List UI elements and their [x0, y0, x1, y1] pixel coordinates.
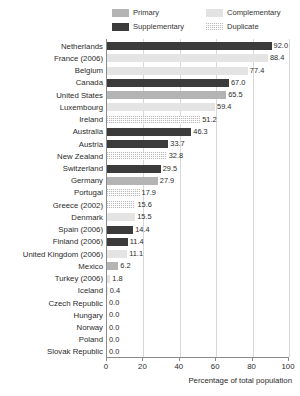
x-tick-40: [179, 357, 180, 361]
legend-swatch-duplicate: [206, 23, 223, 31]
bar-value-label: 77.4: [250, 67, 264, 75]
x-axis-title: Percentage of total population: [0, 376, 292, 385]
bar-value-label: 0.0: [109, 336, 119, 344]
bar-supplementary: [107, 238, 128, 246]
x-tick-label-100: 100: [281, 362, 294, 371]
legend-swatch-supplementary: [112, 23, 129, 31]
bar-supplementary: [107, 79, 229, 87]
bar-complementary: [107, 250, 127, 258]
bar-primary: [107, 262, 118, 270]
x-tick-0: [106, 357, 107, 361]
bar-value-label: 29.5: [163, 165, 177, 173]
x-axis-line: [106, 357, 289, 358]
legend-label-primary: Primary: [133, 9, 159, 17]
bar-value-label: 0.0: [109, 348, 119, 356]
bar-complementary: [107, 213, 135, 221]
bar-complementary: [107, 287, 108, 295]
category-label: Slovak Republic: [47, 345, 103, 359]
legend-item-supplementary: Supplementary: [112, 20, 202, 34]
bar-duplicate: [107, 201, 135, 209]
bar-supplementary: [107, 165, 161, 173]
bar-value-label: 59.4: [217, 103, 231, 111]
bar-value-label: 88.4: [270, 54, 284, 62]
bar-value-label: 32.8: [169, 152, 183, 160]
bar-value-label: 15.5: [137, 213, 151, 221]
legend-swatch-complementary: [206, 9, 223, 17]
x-tick-label-0: 0: [104, 362, 108, 371]
bar-value-label: 1.8: [112, 275, 122, 283]
bar-supplementary: [107, 226, 133, 234]
legend-item-primary: Primary: [112, 6, 202, 20]
bar-value-label: 33.7: [170, 140, 184, 148]
bar-duplicate: [107, 189, 140, 197]
legend-swatch-primary: [112, 9, 129, 17]
bar-supplementary: [107, 140, 168, 148]
bar-value-label: 15.6: [137, 201, 151, 209]
chart-legend: Primary Complementary Supplementary Dupl…: [112, 6, 296, 34]
x-tick-80: [252, 357, 253, 361]
bar-value-label: 46.3: [193, 128, 207, 136]
legend-item-complementary: Complementary: [206, 6, 296, 20]
x-tick-label-20: 20: [138, 362, 147, 371]
bar-value-label: 67.0: [231, 79, 245, 87]
bar-supplementary: [107, 42, 272, 50]
bar-value-label: 27.9: [160, 177, 174, 185]
bar-value-label: 11.1: [129, 250, 143, 258]
insurance-coverage-bar-chart: Primary Complementary Supplementary Dupl…: [0, 0, 300, 396]
bar-complementary: [107, 103, 215, 111]
bar-complementary: [107, 275, 110, 283]
bar-complementary: [107, 67, 248, 75]
bar-value-label: 65.5: [228, 91, 242, 99]
legend-label-complementary: Complementary: [227, 9, 281, 17]
bar-value-label: 11.4: [130, 238, 144, 246]
x-tick-100: [288, 357, 289, 361]
bar-value-label: 17.9: [142, 189, 156, 197]
x-tick-60: [215, 357, 216, 361]
bar-supplementary: [107, 128, 191, 136]
bar-value-label: 0.0: [109, 311, 119, 319]
bar-duplicate: [107, 152, 167, 160]
bar-value-label: 92.0: [274, 42, 288, 50]
bar-primary: [107, 177, 158, 185]
bar-complementary: [107, 54, 268, 62]
bar-value-label: 0.4: [110, 287, 120, 295]
bar-value-label: 0.0: [109, 324, 119, 332]
x-tick-label-40: 40: [174, 362, 183, 371]
bar-duplicate: [107, 116, 200, 124]
bar-value-label: 6.2: [120, 262, 130, 270]
category-axis-labels: NetherlandsFrance (2006)BelgiumCanadaUni…: [0, 39, 103, 357]
gridline-100: [289, 39, 290, 357]
x-tick-20: [142, 357, 143, 361]
bar-primary: [107, 91, 226, 99]
x-tick-label-80: 80: [247, 362, 256, 371]
bar-rows: 92.088.477.467.065.559.451.246.333.732.8…: [107, 39, 288, 357]
legend-label-duplicate: Duplicate: [227, 23, 259, 31]
legend-item-duplicate: Duplicate: [206, 20, 296, 34]
x-tick-label-60: 60: [211, 362, 220, 371]
bar-value-label: 0.0: [109, 299, 119, 307]
legend-label-supplementary: Supplementary: [133, 23, 184, 31]
bar-value-label: 14.4: [135, 226, 149, 234]
plot-area: 92.088.477.467.065.559.451.246.333.732.8…: [106, 39, 288, 357]
bar-value-label: 51.2: [202, 116, 216, 124]
